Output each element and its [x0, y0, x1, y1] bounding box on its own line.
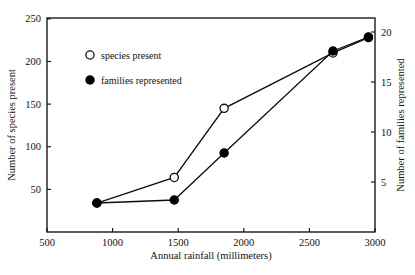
y-tick-label-right: 20 [381, 27, 392, 38]
legend-label: species present [101, 50, 161, 61]
data-point-families-represented [329, 47, 337, 55]
y-tick-label-left: 100 [25, 141, 41, 152]
legend-label: families represented [101, 75, 182, 86]
y-axis-title-right: Number of families represented [395, 58, 406, 192]
data-point-species-present [220, 104, 228, 112]
y-tick-label-right: 15 [381, 77, 392, 88]
chart-background [0, 0, 415, 275]
y-tick-label-right: 5 [381, 177, 386, 188]
data-point-families-represented [364, 33, 372, 41]
y-tick-label-left: 150 [25, 99, 41, 110]
legend-marker-open-circle [86, 51, 94, 59]
x-tick-label: 2000 [233, 237, 254, 248]
data-point-families-represented [170, 196, 178, 204]
x-tick-label: 1500 [168, 237, 189, 248]
y-tick-label-left: 50 [31, 184, 42, 195]
rainfall-species-families-chart: 50010001500200025003000 50100150200250 5… [0, 0, 415, 275]
y-tick-label-left: 250 [25, 13, 41, 24]
data-point-families-represented [93, 199, 101, 207]
data-point-species-present [170, 173, 178, 181]
x-tick-label: 2500 [299, 237, 320, 248]
y-axis-title-left: Number of species present [6, 69, 17, 181]
data-point-families-represented [220, 149, 228, 157]
x-tick-label: 3000 [365, 237, 386, 248]
x-axis-title: Annual rainfall (millimeters) [150, 250, 272, 262]
x-tick-label: 1000 [102, 237, 123, 248]
y-tick-label-left: 200 [25, 56, 41, 67]
figure: 50010001500200025003000 50100150200250 5… [0, 0, 415, 275]
legend-marker-filled-circle [86, 76, 94, 84]
x-tick-label: 500 [39, 237, 55, 248]
y-tick-label-right: 10 [381, 127, 392, 138]
